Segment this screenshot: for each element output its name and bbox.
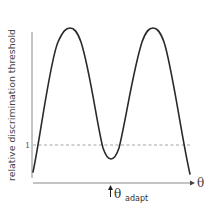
x-axis-arrowhead-icon [190,181,195,186]
adapt-arrowhead-icon [108,185,113,190]
y-axis-label: relative discrimination threshold [6,29,17,181]
theta-adapt-subscript: adapt [125,194,148,203]
theta-adapt-label: θ adapt [114,187,148,203]
threshold-curve [33,28,190,174]
x-axis-label: θ [197,176,204,190]
theta-adapt-symbol: θ [114,187,121,201]
y-tick-1: 1 [25,141,30,150]
threshold-chart: relative discrimination threshold 1 θ θ … [0,0,209,210]
